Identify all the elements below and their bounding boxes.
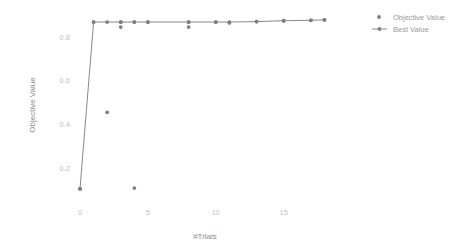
y-axis-title: Objective Value bbox=[28, 77, 37, 133]
objective-value-scatter-chart: 0.20.40.60.8 051015 Objective Value #Tri… bbox=[0, 0, 454, 249]
legend-marker-objective-value bbox=[377, 15, 381, 19]
y-tick-label: 0.4 bbox=[60, 120, 70, 129]
objective-value-point bbox=[132, 20, 136, 24]
y-tick-label: 0.8 bbox=[60, 33, 70, 42]
objective-value-point bbox=[119, 20, 123, 24]
objective-value-point bbox=[92, 20, 96, 24]
y-tick-label: 0.6 bbox=[60, 76, 70, 85]
y-tick-label: 0.2 bbox=[60, 164, 70, 173]
objective-value-point bbox=[227, 21, 231, 25]
legend-label-objective-value: Objective Value bbox=[393, 13, 445, 22]
x-tick-label: 15 bbox=[280, 208, 288, 217]
best-value-point bbox=[105, 20, 109, 24]
legend-marker-best-value bbox=[378, 27, 382, 31]
objective-value-point bbox=[146, 20, 150, 24]
legend-label-best-value: Best Value bbox=[393, 25, 429, 34]
objective-value-point bbox=[255, 20, 259, 24]
objective-value-point bbox=[119, 25, 123, 29]
objective-value-point bbox=[214, 20, 218, 24]
objective-value-point bbox=[187, 20, 191, 24]
objective-value-point bbox=[105, 110, 109, 114]
objective-value-point bbox=[187, 25, 191, 29]
x-tick-label: 0 bbox=[78, 208, 82, 217]
objective-value-point bbox=[78, 187, 82, 191]
chart-container: 0.20.40.60.8 051015 Objective Value #Tri… bbox=[0, 0, 454, 249]
x-axis-title: #Trials bbox=[193, 232, 217, 241]
objective-value-point bbox=[309, 18, 313, 22]
objective-value-point bbox=[132, 186, 136, 190]
objective-value-point bbox=[323, 18, 327, 22]
x-tick-label: 10 bbox=[212, 208, 220, 217]
objective-value-point bbox=[282, 19, 286, 23]
x-tick-label: 5 bbox=[146, 208, 150, 217]
